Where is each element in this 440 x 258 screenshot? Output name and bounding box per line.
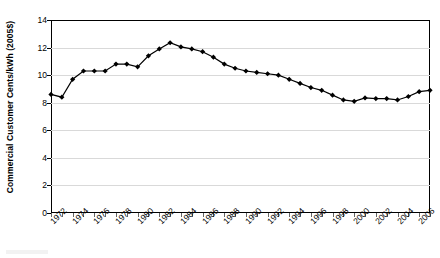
data-point-marker <box>406 94 411 99</box>
data-point-marker <box>362 95 367 100</box>
data-point-marker <box>308 85 313 90</box>
y-tick-label: 10 <box>11 71 51 79</box>
data-point-marker <box>168 40 173 45</box>
data-point-marker <box>265 71 270 76</box>
data-point-marker <box>297 81 302 86</box>
y-axis-ticks: 02468101214 <box>0 0 51 213</box>
y-tick-label: 0 <box>11 209 51 217</box>
y-tick-label: 8 <box>11 99 51 107</box>
data-point-marker <box>287 77 292 82</box>
data-point-marker <box>330 93 335 98</box>
data-point-marker <box>395 97 400 102</box>
data-point-marker <box>276 73 281 78</box>
data-point-marker <box>92 68 97 73</box>
chart-figure: Commercial Customer Cents/kWh (2005$) 02… <box>0 0 440 258</box>
y-tick-label: 6 <box>11 126 51 134</box>
data-point-marker <box>373 96 378 101</box>
data-point-marker <box>243 68 248 73</box>
data-point-marker <box>254 70 259 75</box>
data-point-marker <box>319 88 324 93</box>
data-point-marker <box>200 49 205 54</box>
y-tick-label: 4 <box>11 154 51 162</box>
y-tick-label: 14 <box>11 16 51 24</box>
plot-area <box>51 20 430 213</box>
data-point-marker <box>427 88 432 93</box>
data-point-marker <box>341 97 346 102</box>
scan-artifact <box>6 250 48 254</box>
y-tick-label: 12 <box>11 44 51 52</box>
data-point-marker <box>124 62 129 67</box>
series-polyline <box>51 43 430 102</box>
x-axis-labels: 1972197419761978198019821984198619881990… <box>0 219 440 258</box>
data-point-marker <box>352 99 357 104</box>
data-point-marker <box>232 66 237 71</box>
data-point-marker <box>189 46 194 51</box>
data-point-marker <box>59 95 64 100</box>
data-point-marker <box>384 96 389 101</box>
y-tick-label: 2 <box>11 181 51 189</box>
data-point-marker <box>178 44 183 49</box>
series-line <box>51 20 430 213</box>
data-point-marker <box>417 89 422 94</box>
